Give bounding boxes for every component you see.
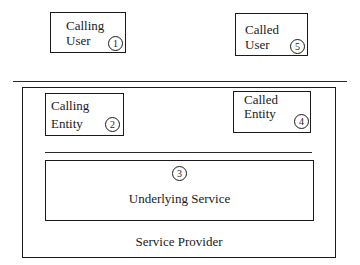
underlying-service-label: Underlying Service [46, 191, 313, 207]
called-entity-label: Called Entity [244, 93, 278, 121]
top-separator-line [13, 81, 347, 82]
called-entity-box: Called Entity 4 [233, 91, 311, 133]
calling-user-label: Calling User [66, 18, 104, 48]
underlying-service-box: 3 Underlying Service [45, 160, 314, 221]
step-4-badge: 4 [294, 114, 309, 129]
called-user-label: Called User [245, 22, 279, 52]
step-3-badge: 3 [172, 166, 187, 181]
step-2-badge: 2 [105, 117, 120, 132]
calling-entity-box: Calling Entity 2 [45, 93, 124, 136]
calling-user-box: Calling User 1 [50, 12, 126, 53]
calling-entity-label: Calling Entity [51, 97, 89, 133]
service-provider-label: Service Provider [23, 234, 335, 250]
inner-separator-line [45, 152, 312, 153]
step-5-badge: 5 [290, 39, 305, 54]
called-user-box: Called User 5 [235, 13, 308, 56]
step-1-badge: 1 [108, 36, 123, 51]
